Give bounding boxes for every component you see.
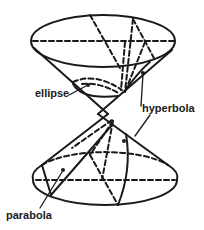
hyperbola-leader-lower — [135, 115, 150, 136]
hyperbola-lower-leader-dot — [122, 139, 126, 143]
parabola-dashed-generator — [72, 120, 112, 148]
top-cone-left-side — [34, 48, 108, 114]
double-cone-diagram — [0, 0, 204, 230]
bottom-cone-rim-right — [168, 165, 177, 180]
top-cone — [31, 15, 176, 114]
parabola-leader — [40, 172, 62, 208]
top-cone-dashed-generator-3 — [133, 19, 155, 60]
ellipse-section-front — [73, 84, 118, 97]
ellipse-label: ellipse — [35, 88, 69, 99]
ellipse-leader-dot — [86, 83, 90, 87]
hyperbola-label: hyperbola — [142, 103, 195, 114]
hyperbola-lower-branch — [118, 134, 128, 205]
bottom-cone — [33, 114, 178, 205]
parabola-leader-dot — [61, 168, 65, 172]
hyperbola-leader-dot — [141, 71, 145, 75]
bottom-cone-rim-left — [33, 165, 42, 180]
parabola-label: parabola — [6, 210, 52, 221]
